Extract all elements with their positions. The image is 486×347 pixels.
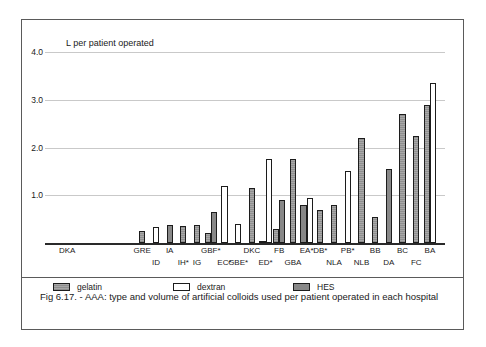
bar-BB-gelatin	[372, 217, 378, 243]
bar-BC-gelatin	[399, 114, 405, 243]
ytick-label-4.0: 4.0	[19, 47, 43, 57]
bar-BA-dextran	[430, 83, 436, 243]
xtick-label-NLB: NLB	[354, 258, 370, 267]
x-axis-line	[45, 243, 445, 245]
bar-EDstar-dextran	[266, 159, 272, 243]
ytick-label-1.0: 1.0	[19, 190, 43, 200]
xtick-label-IA: IA	[166, 246, 174, 255]
bar-DKC-gelatin	[249, 188, 255, 243]
xtick-label-GBA: GBA	[284, 258, 301, 267]
xtick-label-DA: DA	[383, 258, 394, 267]
xtick-label-GBEstar: GBE*	[228, 258, 248, 267]
xtick-label-BC: BC	[397, 246, 408, 255]
bar-DBstar-gelatin	[317, 210, 323, 243]
bar-GBFstar-hes	[211, 212, 217, 243]
xtick-label-DKC: DKC	[243, 246, 260, 255]
xtick-label-NLA: NLA	[326, 258, 342, 267]
bar-IHstar-gelatin	[180, 226, 186, 243]
ytick-label-3.0: 3.0	[19, 95, 43, 105]
bar-FC-gelatin	[413, 136, 419, 243]
xtick-label-IHstar: IH*	[178, 258, 189, 267]
bar-GBEstar-dextran	[235, 224, 241, 243]
figure-container: L per patient operated 1.02.03.04.0 DKA …	[21, 19, 464, 330]
bar-IG-gelatin	[194, 225, 200, 243]
x-axis-labels: GREIDIAIH*IGGBF*EC*GBE*DKCED*FBGBAEA*DB*…	[45, 246, 445, 276]
xtick-label-BB: BB	[370, 246, 381, 255]
figure-caption: Fig 6.17. - AAA: type and volume of arti…	[40, 290, 440, 304]
xtick-label-FC: FC	[411, 258, 422, 267]
bar-ID-dextran	[153, 227, 159, 243]
xtick-label-BA: BA	[425, 246, 436, 255]
bar-IA-hes	[167, 225, 173, 243]
bar-EAstar-dextran	[307, 198, 313, 243]
xtick-label-EDstar: ED*	[258, 258, 272, 267]
bar-NLA-gelatin	[331, 205, 337, 243]
bar-DA-hes	[386, 169, 392, 243]
xtick-label-IG: IG	[193, 258, 201, 267]
xtick-label-ID: ID	[152, 258, 160, 267]
bar-ECstar-dextran	[221, 186, 227, 243]
y-axis-title: L per patient operated	[66, 38, 154, 48]
ytick-label-2.0: 2.0	[19, 143, 43, 153]
xtick-label-DBstar: DB*	[313, 246, 327, 255]
bar-series-group	[45, 52, 445, 243]
bar-GBA-gelatin	[290, 159, 296, 243]
xtick-label-GBFstar: GBF*	[201, 246, 221, 255]
bar-NLB-gelatin	[358, 138, 364, 243]
bar-FB-hes	[279, 200, 285, 243]
bar-PBstar-dextran	[345, 171, 351, 243]
caption-box: Fig 6.17. - AAA: type and volume of arti…	[22, 277, 463, 329]
xtick-label-PBstar: PB*	[341, 246, 355, 255]
bar-GRE-gelatin	[139, 231, 145, 243]
xtick-label-EAstar: EA*	[300, 246, 314, 255]
xtick-label-FB: FB	[274, 246, 284, 255]
xtick-label-GRE: GRE	[134, 246, 151, 255]
